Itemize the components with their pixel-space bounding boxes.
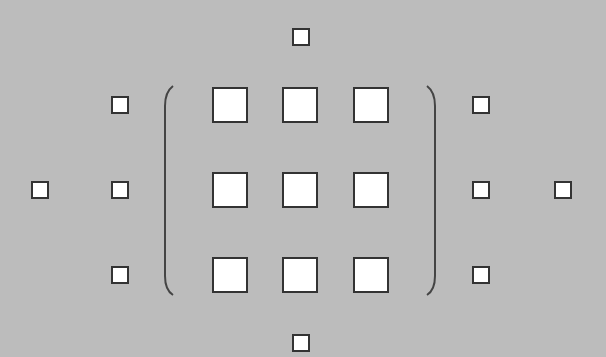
left-parenthesis bbox=[165, 86, 173, 295]
matrix-cell-r0-c2 bbox=[353, 87, 389, 123]
small-square-top bbox=[292, 28, 310, 46]
matrix-cell-r0-c1 bbox=[282, 87, 318, 123]
small-square-left-bottom bbox=[111, 266, 129, 284]
matrix-cell-r2-c2 bbox=[353, 257, 389, 293]
small-square-far-right bbox=[554, 181, 572, 199]
matrix-cell-r1-c2 bbox=[353, 172, 389, 208]
small-square-left-middle bbox=[111, 181, 129, 199]
diagram-canvas bbox=[0, 0, 606, 357]
small-square-bottom bbox=[292, 334, 310, 352]
small-square-far-left bbox=[31, 181, 49, 199]
right-parenthesis bbox=[427, 86, 435, 295]
matrix-cell-r1-c1 bbox=[282, 172, 318, 208]
matrix-cell-r0-c0 bbox=[212, 87, 248, 123]
matrix-cell-r2-c1 bbox=[282, 257, 318, 293]
small-square-right-top bbox=[472, 96, 490, 114]
small-square-right-middle bbox=[472, 181, 490, 199]
matrix-cell-r2-c0 bbox=[212, 257, 248, 293]
small-square-right-bottom bbox=[472, 266, 490, 284]
matrix-cell-r1-c0 bbox=[212, 172, 248, 208]
small-square-left-top bbox=[111, 96, 129, 114]
